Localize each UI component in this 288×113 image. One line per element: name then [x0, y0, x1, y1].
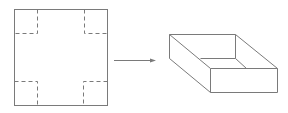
box-front-face	[211, 69, 278, 93]
cut-line-bottom-left	[15, 82, 38, 106]
cut-line-top-right	[85, 10, 108, 34]
sheet-outline	[15, 10, 108, 106]
cut-line-top-left	[15, 10, 38, 34]
arrow-head-icon	[150, 59, 156, 63]
box-inner-back-edge	[201, 59, 247, 69]
diagram-canvas	[0, 0, 288, 113]
transform-arrow	[114, 59, 156, 63]
open-box	[170, 35, 278, 93]
cut-line-bottom-right	[84, 82, 108, 106]
box-rim	[170, 35, 278, 69]
flat-sheet	[15, 10, 108, 106]
